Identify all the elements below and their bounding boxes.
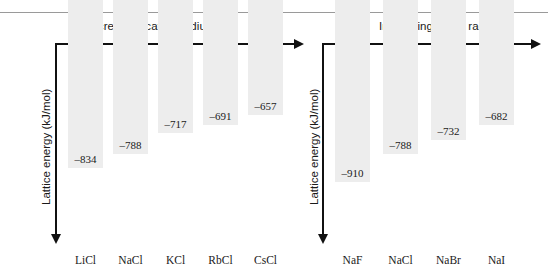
bar-nai: –682	[479, 0, 514, 125]
bar-naf: –910	[335, 0, 370, 182]
bar-value-licl: –834	[68, 153, 103, 165]
bar-kcl: –717	[158, 0, 193, 133]
x-tick-rbcl: RbCl	[203, 254, 238, 266]
x-tick-cscl: CsCl	[248, 254, 283, 266]
bar-nacl: –788	[383, 0, 418, 154]
bar-licl: –834	[68, 0, 103, 168]
bar-nabr: –732	[431, 0, 466, 140]
bar-value-rbcl: –691	[203, 110, 238, 122]
chart-panel-cation: Increasing cation radius Lattice energy …	[0, 0, 300, 278]
y-axis-arrow-anion	[322, 43, 324, 235]
bar-value-nai: –682	[479, 110, 514, 122]
arrow-head-down-icon	[51, 234, 61, 244]
arrow-head-right-icon	[531, 39, 541, 49]
bar-value-cscl: –657	[248, 100, 283, 112]
bar-rbcl: –691	[203, 0, 238, 125]
bar-value-nacl: –788	[383, 139, 418, 151]
bar-cscl: –657	[248, 0, 283, 115]
bar-nacl: –788	[113, 0, 148, 154]
y-axis-label-anion: Lattice energy (kJ/mol)	[308, 89, 320, 205]
y-axis-arrow-cation	[55, 43, 57, 235]
chart-title-cation: Increasing cation radius	[88, 20, 212, 32]
x-tick-naf: NaF	[335, 254, 370, 266]
x-tick-nacl: NaCl	[113, 254, 148, 266]
x-tick-kcl: KCl	[158, 254, 193, 266]
chart-panel-anion: Increasing anion radius Lattice energy (…	[300, 0, 548, 278]
bar-value-nabr: –732	[431, 125, 466, 137]
y-axis-label-cation: Lattice energy (kJ/mol)	[40, 89, 52, 205]
x-tick-nacl: NaCl	[383, 254, 418, 266]
x-tick-nabr: NaBr	[431, 254, 466, 266]
x-tick-licl: LiCl	[68, 254, 103, 266]
x-tick-nai: NaI	[479, 254, 514, 266]
bar-value-naf: –910	[335, 167, 370, 179]
arrow-head-down-icon	[318, 234, 328, 244]
bar-value-kcl: –717	[158, 118, 193, 130]
bar-value-nacl: –788	[113, 139, 148, 151]
